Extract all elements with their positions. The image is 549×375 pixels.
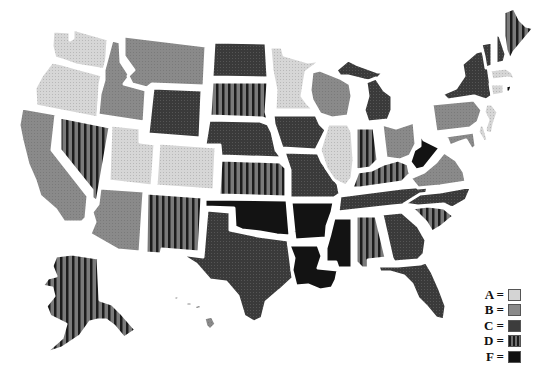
- state-MS: [326, 218, 352, 268]
- state-AK: [42, 254, 136, 354]
- state-NM: [146, 193, 202, 254]
- state-KS: [219, 160, 286, 197]
- state-WY: [148, 88, 202, 138]
- state-AZ: [90, 188, 144, 252]
- legend-swatch-d: [508, 335, 521, 347]
- state-SD: [210, 82, 268, 120]
- legend-label-d: D =: [476, 333, 504, 349]
- legend-item-c: C =: [476, 318, 546, 334]
- legend: A = B = C = D = F =: [476, 287, 546, 365]
- state-ND: [212, 42, 268, 78]
- legend-swatch-c: [508, 320, 521, 332]
- state-IN: [356, 128, 378, 170]
- legend-swatch-a: [508, 289, 521, 301]
- state-HI-3: [186, 302, 192, 306]
- state-IA: [273, 115, 326, 150]
- state-GA: [382, 212, 426, 262]
- legend-label-c: C =: [476, 318, 504, 334]
- state-AL: [356, 216, 386, 268]
- state-RI: [506, 84, 512, 92]
- state-OR: [35, 62, 102, 118]
- state-PA: [432, 100, 482, 132]
- state-HI: [204, 316, 216, 330]
- legend-item-d: D =: [476, 334, 546, 350]
- state-FL: [378, 262, 446, 320]
- state-HI-4: [174, 296, 180, 300]
- state-MD: [446, 132, 476, 150]
- state-ME: [504, 8, 534, 60]
- state-MT: [124, 36, 206, 88]
- legend-swatch-b: [508, 304, 521, 316]
- state-HI-2: [194, 304, 202, 310]
- legend-swatch-f: [508, 351, 521, 363]
- state-CT: [490, 84, 504, 96]
- legend-label-f: F =: [476, 349, 504, 365]
- legend-item-b: B =: [476, 303, 546, 319]
- legend-label-b: B =: [476, 302, 504, 318]
- legend-item-a: A =: [476, 287, 546, 303]
- state-OH: [382, 122, 416, 160]
- us-grade-map: [0, 0, 549, 375]
- state-MA: [490, 68, 516, 80]
- state-MI-LP: [364, 78, 392, 122]
- legend-item-f: F =: [476, 349, 546, 365]
- state-AR: [291, 202, 334, 240]
- legend-label-a: A =: [476, 287, 504, 303]
- state-CO: [156, 143, 216, 190]
- state-HI-5: [168, 294, 171, 297]
